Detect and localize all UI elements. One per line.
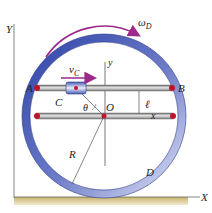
- collar-pin: [74, 86, 78, 90]
- D-label: D: [145, 166, 154, 178]
- diagram-canvas: Y X ωD y ℓ x R θ C vC A B O D: [0, 0, 212, 213]
- pin-O: [102, 114, 107, 119]
- pin-right-lower: [170, 113, 176, 119]
- x-label: x: [150, 110, 156, 121]
- theta-label: θ: [83, 102, 88, 113]
- omega-D-label: ωD: [138, 16, 152, 31]
- radius-line-R: [72, 116, 104, 184]
- rod-AB: [36, 85, 173, 91]
- O-label: O: [106, 101, 114, 113]
- B-label: B: [178, 82, 185, 94]
- v-C-label: vC: [69, 63, 80, 78]
- C-label: C: [55, 96, 63, 108]
- Y-axis-label: Y: [6, 23, 14, 35]
- A-label: A: [25, 82, 33, 94]
- ell-label: ℓ: [145, 98, 150, 110]
- R-label: R: [68, 148, 76, 160]
- pin-left-lower: [34, 113, 40, 119]
- pin-A: [34, 85, 40, 91]
- X-axis-label: X: [200, 191, 209, 203]
- pin-B: [169, 85, 175, 91]
- y-axis-label: y: [107, 57, 113, 68]
